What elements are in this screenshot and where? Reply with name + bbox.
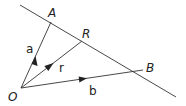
label-point-a: A bbox=[47, 6, 56, 20]
label-vector-r: r bbox=[59, 61, 64, 75]
label-vector-b: b bbox=[89, 84, 97, 98]
label-point-o: O bbox=[8, 90, 17, 104]
arrow-r-icon bbox=[44, 63, 53, 71]
line-ab bbox=[20, 5, 176, 97]
vector-diagram: A R B O a r b bbox=[0, 0, 186, 106]
label-point-b: B bbox=[146, 61, 154, 75]
arrow-b-icon bbox=[79, 77, 87, 83]
label-point-r: R bbox=[82, 27, 90, 41]
label-vector-a: a bbox=[26, 42, 33, 56]
